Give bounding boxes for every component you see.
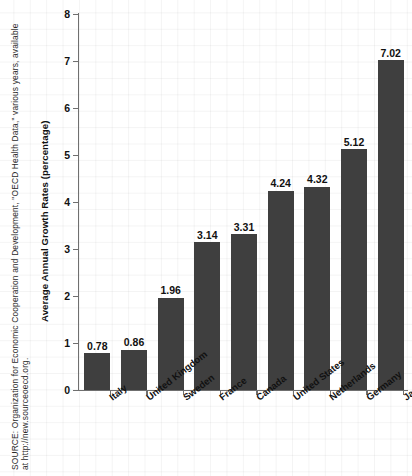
bar-value-label: 4.24 bbox=[270, 178, 290, 189]
bar-value-label: 5.12 bbox=[344, 137, 364, 148]
x-axis-labels: ItalyUnited KingdomSwedenFranceCanadaUni… bbox=[78, 394, 408, 466]
y-tick-label: 2 bbox=[64, 291, 70, 302]
bar-value-label: 0.78 bbox=[87, 341, 107, 352]
bar-value-label: 3.31 bbox=[234, 222, 254, 233]
bar[interactable]: 0.78 bbox=[84, 353, 110, 390]
bar[interactable]: 3.14 bbox=[194, 242, 220, 390]
source-note: SOURCE: Organization for Economic Cooper… bbox=[0, 0, 26, 476]
source-note-line-2: at http://new.sourceoecd.org. bbox=[21, 358, 30, 470]
bar-chart: Average Annual Growth Rates (percentage)… bbox=[30, 4, 408, 466]
y-tick-label: 1 bbox=[64, 338, 70, 349]
bar[interactable]: 0.86 bbox=[121, 350, 147, 390]
y-tick-label: 7 bbox=[64, 56, 70, 67]
bar-value-label: 3.14 bbox=[197, 230, 217, 241]
bar[interactable]: 5.12 bbox=[341, 149, 367, 390]
bar[interactable]: 7.02 bbox=[378, 60, 404, 390]
bar-value-label: 4.32 bbox=[307, 174, 327, 185]
y-axis-title-text: Average Annual Growth Rates (percentage) bbox=[39, 121, 50, 322]
axes: 012345678 0.780.861.963.143.314.244.325.… bbox=[78, 14, 408, 390]
bars-layer: 0.780.861.963.143.314.244.325.127.02 bbox=[78, 14, 408, 390]
y-tick-label: 5 bbox=[64, 150, 70, 161]
y-tick-label: 0 bbox=[64, 385, 70, 396]
plot-area: Average Annual Growth Rates (percentage)… bbox=[30, 4, 408, 410]
y-tick-label: 4 bbox=[64, 197, 70, 208]
y-tick-label: 6 bbox=[64, 103, 70, 114]
bar[interactable]: 4.24 bbox=[268, 191, 294, 390]
source-note-line-1: SOURCE: Organization for Economic Cooper… bbox=[11, 23, 20, 470]
bar-value-label: 7.02 bbox=[380, 48, 400, 59]
y-axis-title: Average Annual Growth Rates (percentage) bbox=[26, 74, 44, 324]
chart-page: SOURCE: Organization for Economic Cooper… bbox=[0, 0, 412, 476]
y-tick-label: 8 bbox=[64, 9, 70, 20]
bar[interactable]: 4.32 bbox=[304, 187, 330, 390]
y-tick-mark bbox=[73, 390, 78, 391]
bar-value-label: 1.96 bbox=[160, 285, 180, 296]
bar-value-label: 0.86 bbox=[124, 337, 144, 348]
bar[interactable]: 3.31 bbox=[231, 234, 257, 390]
y-tick-label: 3 bbox=[64, 244, 70, 255]
